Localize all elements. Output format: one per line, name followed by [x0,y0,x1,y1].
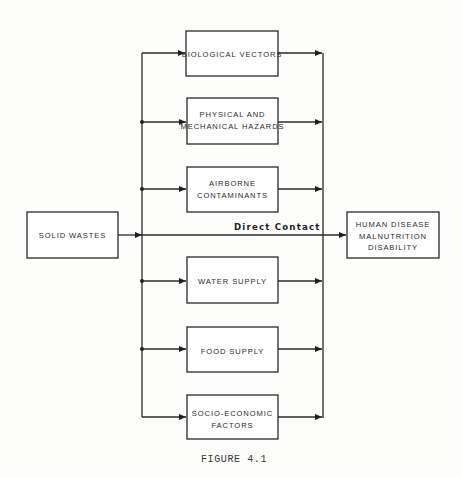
human-disease-box: HUMAN DISEASE MALNUTRITION DISABILITY [347,212,439,258]
socio-economic-label-line-2: FACTORS [211,421,253,430]
solid-wastes-box: SOLID WASTES [27,212,118,258]
socio-economic-label-line-1: SOCIO-ECONOMIC [192,409,273,418]
biological-vectors-box: BIOLOGICAL VECTORS [182,31,283,76]
biological-vectors-label: BIOLOGICAL VECTORS [182,50,283,59]
direct-contact-label: Direct Contact [234,222,321,232]
physical-hazards-label-line-2: MECHANICAL HAZARDS [180,122,284,131]
physical-hazards-box: PHYSICAL AND MECHANICAL HAZARDS [180,98,284,144]
flow-diagram: Direct Contact SOLID WASTES HUMAN DISEAS… [0,0,462,477]
water-supply-box: WATER SUPPLY [187,257,278,303]
physical-hazards-label-line-1: PHYSICAL AND [200,110,266,119]
diagram-canvas: Direct Contact SOLID WASTES HUMAN DISEAS… [0,0,462,477]
food-supply-label: FOOD SUPPLY [201,347,264,356]
socio-economic-box: SOCIO-ECONOMIC FACTORS [187,395,278,439]
airborne-contaminants-label-line-1: AIRBORNE [209,179,256,188]
outcome-label-line-3: DISABILITY [368,243,418,252]
airborne-contaminants-box: AIRBORNE CONTAMINANTS [187,167,278,212]
figure-caption: FIGURE 4.1 [201,454,267,465]
food-supply-box: FOOD SUPPLY [187,327,278,372]
solid-wastes-label: SOLID WASTES [39,231,106,240]
water-supply-label: WATER SUPPLY [198,277,267,286]
outcome-label-line-2: MALNUTRITION [359,232,427,241]
outcome-label-line-1: HUMAN DISEASE [356,220,431,229]
airborne-contaminants-label-line-2: CONTAMINANTS [197,191,268,200]
